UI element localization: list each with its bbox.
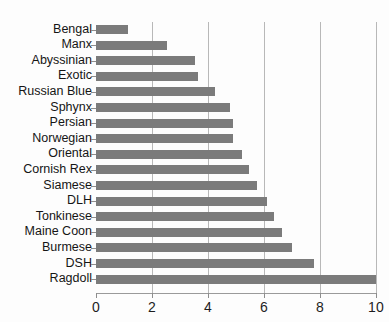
category-tick (91, 123, 96, 124)
bar-abyssinian (96, 56, 195, 65)
category-label-oriental: Oriental (0, 146, 92, 160)
x-tick-6 (264, 293, 265, 298)
x-tick-10 (376, 293, 377, 298)
bar-maine-coon (96, 228, 282, 237)
x-tick-label-0: 0 (76, 299, 116, 315)
category-tick (91, 154, 96, 155)
bar-sphynx (96, 103, 230, 112)
bar-exotic (96, 72, 198, 81)
category-tick (91, 92, 96, 93)
bar-row (96, 84, 376, 100)
category-tick (91, 201, 96, 202)
bar-row (96, 147, 376, 163)
category-label-dlh: DLH (0, 193, 92, 207)
category-tick (91, 279, 96, 280)
bar-row (96, 22, 376, 38)
category-tick (91, 76, 96, 77)
bar-chart: BengalManxAbyssinianExoticRussian BlueSp… (0, 0, 389, 322)
bar-row (96, 272, 376, 288)
bar-row (96, 209, 376, 225)
category-label-persian: Persian (0, 115, 92, 129)
category-label-sphynx: Sphynx (0, 100, 92, 114)
bar-row (96, 100, 376, 116)
bar-row (96, 178, 376, 194)
category-tick (91, 139, 96, 140)
category-label-ragdoll: Ragdoll (0, 271, 92, 285)
category-label-cornish-rex: Cornish Rex (0, 162, 92, 176)
bar-row (96, 225, 376, 241)
bar-row (96, 256, 376, 272)
bar-cornish-rex (96, 165, 249, 174)
category-tick (91, 170, 96, 171)
bar-row (96, 116, 376, 132)
category-tick (91, 248, 96, 249)
category-label-exotic: Exotic (0, 68, 92, 82)
bar-persian (96, 119, 233, 128)
category-tick (91, 186, 96, 187)
bar-row (96, 194, 376, 210)
bar-row (96, 131, 376, 147)
bar-dsh (96, 259, 314, 268)
category-tick (91, 61, 96, 62)
bar-russian-blue (96, 87, 215, 96)
category-tick (91, 108, 96, 109)
bar-siamese (96, 181, 257, 190)
x-tick-label-8: 8 (300, 299, 340, 315)
category-label-manx: Manx (0, 37, 92, 51)
category-tick (91, 232, 96, 233)
bar-row (96, 53, 376, 69)
category-label-dsh: DSH (0, 256, 92, 270)
category-label-bengal: Bengal (0, 22, 92, 36)
plot-area (96, 22, 376, 293)
category-label-russian-blue: Russian Blue (0, 84, 92, 98)
bar-manx (96, 41, 167, 50)
category-label-maine-coon: Maine Coon (0, 224, 92, 238)
bar-norwegian (96, 134, 233, 143)
x-tick-0 (96, 293, 97, 298)
gridline-10 (376, 22, 377, 293)
bar-row (96, 38, 376, 54)
bar-row (96, 162, 376, 178)
bar-bengal (96, 25, 128, 34)
category-label-burmese: Burmese (0, 240, 92, 254)
x-tick-label-10: 10 (356, 299, 389, 315)
x-tick-2 (152, 293, 153, 298)
x-tick-label-2: 2 (132, 299, 172, 315)
category-label-tonkinese: Tonkinese (0, 209, 92, 223)
bar-row (96, 240, 376, 256)
category-tick (91, 45, 96, 46)
bar-burmese (96, 243, 292, 252)
x-tick-4 (208, 293, 209, 298)
bar-ragdoll (96, 275, 376, 284)
bar-row (96, 69, 376, 85)
x-axis-line (96, 293, 377, 294)
category-label-norwegian: Norwegian (0, 131, 92, 145)
category-tick (91, 264, 96, 265)
x-tick-label-4: 4 (188, 299, 228, 315)
bar-tonkinese (96, 212, 274, 221)
x-tick-8 (320, 293, 321, 298)
bar-oriental (96, 150, 242, 159)
category-tick (91, 30, 96, 31)
bar-dlh (96, 197, 267, 206)
category-label-abyssinian: Abyssinian (0, 53, 92, 67)
category-tick (91, 217, 96, 218)
x-tick-label-6: 6 (244, 299, 284, 315)
category-label-siamese: Siamese (0, 178, 92, 192)
